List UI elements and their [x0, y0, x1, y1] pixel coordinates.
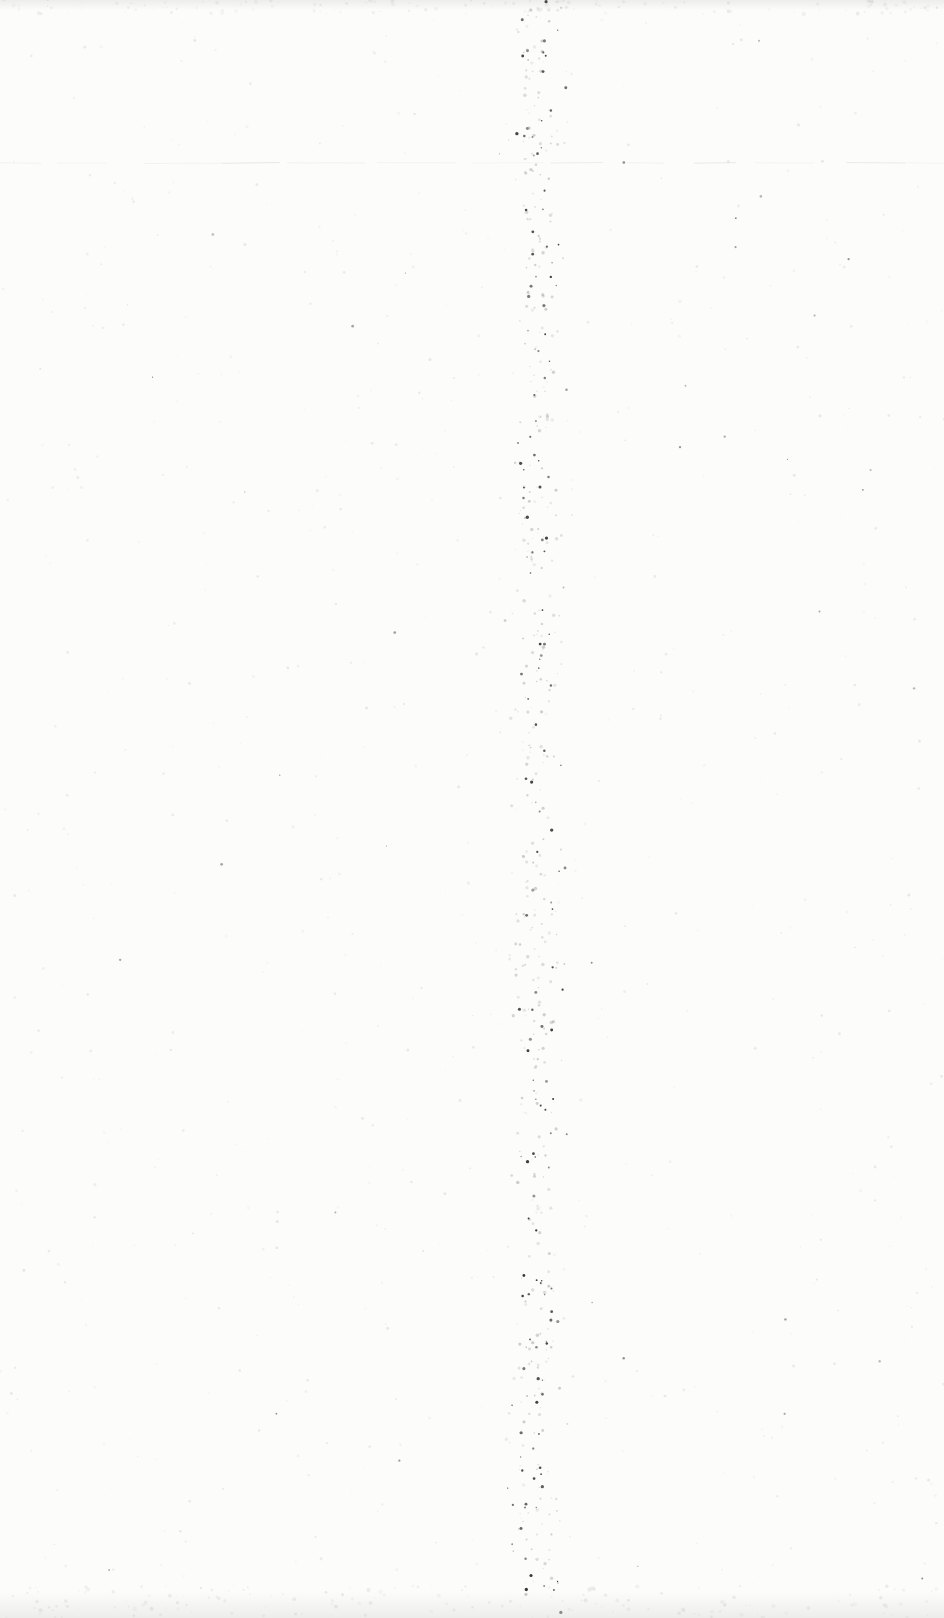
scanned-blank-page	[0, 0, 944, 1618]
scan-noise-texture	[0, 0, 944, 1618]
